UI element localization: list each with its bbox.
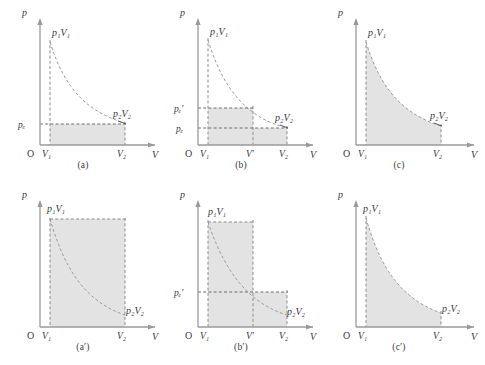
origin-label: O: [185, 330, 192, 341]
panel-c: p V O V₁ V₂ p₁V₁ p₂V₂ (c): [316, 0, 485, 160]
tick-v1: V₁: [358, 331, 367, 341]
y-axis-arrow: [195, 200, 200, 207]
y-axis-label: p: [179, 189, 185, 200]
y-axis-label: p: [337, 7, 343, 18]
tick-vprime: V′: [246, 331, 255, 341]
x-axis-label: V: [471, 149, 479, 160]
x-axis-label: V: [471, 331, 479, 342]
pv-diagram-figure: p V O V₁ V₂ pₑ p₁V₁ p₂V₂ (a): [0, 0, 485, 365]
tick-v1: V₁: [42, 149, 51, 159]
origin-label: O: [27, 148, 34, 159]
tick-v2: V₂: [279, 149, 289, 159]
point-label-p2v2: p₂V₂: [429, 110, 449, 121]
point-label-p1v1: p₁V₁: [46, 203, 65, 214]
point-label-p2v2: p₂V₂: [286, 306, 306, 317]
shaded-region: [366, 42, 441, 145]
panel-caption-a: (a): [63, 160, 103, 170]
tick-v2: V₂: [433, 149, 443, 159]
point-label-p2v2: p₂V₂: [441, 303, 461, 314]
point-label-p2v2: p₂V₂: [274, 112, 294, 123]
point-label-p1v1: p₁V₁: [209, 26, 228, 37]
y-axis-label: p: [21, 7, 27, 18]
tick-pe: pₑ: [175, 124, 184, 134]
panel-c-prime: p V O V₁ V₂ p₁V₁ p₂V₂ (c′): [316, 182, 485, 342]
panel-caption-c-prime: (c′): [379, 342, 419, 352]
tick-v1: V₁: [200, 331, 209, 341]
panel-b-prime: p V O V₁ V′ V₂ pₑ′ p₁V₁ p₂V₂ (b′): [158, 182, 323, 342]
point-label-p1v1: p₁V₁: [207, 206, 226, 217]
panel-caption-c: (c): [379, 160, 419, 170]
point-label-p2v2: p₂V₂: [112, 108, 132, 119]
tick-pe-prime: pₑ′: [173, 104, 184, 114]
tick-v1: V₁: [200, 149, 209, 159]
point-label-p2v2: p₂V₂: [125, 305, 145, 316]
x-axis-arrow: [306, 142, 313, 147]
y-axis-arrow: [353, 200, 358, 207]
shaded-region: [366, 218, 441, 327]
origin-label: O: [343, 330, 350, 341]
x-axis-arrow: [467, 324, 474, 329]
y-axis-arrow: [353, 18, 358, 25]
y-axis-label: p: [179, 7, 185, 18]
y-axis-arrow: [195, 18, 200, 25]
panel-caption-b-prime: (b′): [221, 342, 261, 352]
tick-v2: V₂: [117, 331, 127, 341]
y-axis-arrow: [37, 18, 42, 25]
panel-b: p V O V₁ V′ V₂ pₑ′ pₑ p₁V₁ p₂V₂ (b): [158, 0, 323, 160]
tick-vprime: V′: [246, 149, 255, 159]
tick-v2: V₂: [433, 331, 443, 341]
panel-a: p V O V₁ V₂ pₑ p₁V₁ p₂V₂ (a): [0, 0, 165, 160]
y-axis-label: p: [337, 189, 343, 200]
x-axis-arrow: [148, 324, 155, 329]
x-axis-arrow: [306, 324, 313, 329]
tick-v1: V₁: [358, 149, 367, 159]
y-axis-arrow: [37, 200, 42, 207]
origin-label: O: [27, 330, 34, 341]
tick-pe: pₑ: [17, 120, 26, 130]
origin-label: O: [185, 148, 192, 159]
panel-a-prime: p V O V₁ V₂ p₁V₁ p₂V₂ (a′): [0, 182, 165, 342]
x-axis-arrow: [467, 142, 474, 147]
tick-v2: V₂: [117, 149, 127, 159]
panel-caption-a-prime: (a′): [63, 342, 103, 352]
origin-label: O: [343, 148, 350, 159]
point-label-p1v1: p₁V₁: [362, 203, 381, 214]
shaded-region-step2: [208, 292, 287, 327]
point-label-p1v1: p₁V₁: [51, 27, 70, 38]
y-axis-label: p: [21, 189, 27, 200]
shaded-region: [50, 124, 125, 145]
tick-pe-prime: pₑ′: [173, 288, 184, 298]
x-axis-arrow: [148, 142, 155, 147]
tick-v1: V₁: [42, 331, 51, 341]
tick-v2: V₂: [279, 331, 289, 341]
shaded-region-step2: [208, 128, 287, 145]
point-label-p1v1: p₁V₁: [367, 27, 386, 38]
panel-caption-b: (b): [221, 160, 261, 170]
